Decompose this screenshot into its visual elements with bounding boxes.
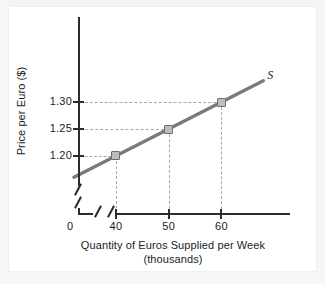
plot-area: S 1.30 1.25 1.20 40 50 60 0 Price per Eu… xyxy=(0,0,325,284)
y-axis-tick-label: 1.20 xyxy=(32,149,72,161)
data-point-marker xyxy=(164,125,173,134)
origin-label: 0 xyxy=(60,220,80,232)
x-axis-tick-label: 60 xyxy=(204,220,238,232)
y-axis-title: Price per Euro ($) xyxy=(15,51,27,171)
x-axis-tick xyxy=(220,209,222,219)
x-axis-tick-label: 40 xyxy=(99,220,133,232)
x-axis-title-line2: (thousands) xyxy=(143,253,202,265)
curve-label-s: S xyxy=(267,68,273,83)
x-axis-title: Quantity of Euros Supplied per Week (tho… xyxy=(48,238,298,266)
x-axis-title-line1: Quantity of Euros Supplied per Week xyxy=(81,239,265,251)
y-axis-tick xyxy=(73,101,84,103)
figure-container: S 1.30 1.25 1.20 40 50 60 0 Price per Eu… xyxy=(0,0,325,284)
x-axis-tick xyxy=(115,209,117,219)
x-axis-tick xyxy=(168,209,170,219)
y-axis-tick xyxy=(73,155,84,157)
y-axis-tick-label: 1.25 xyxy=(32,122,72,134)
y-axis-tick-label: 1.30 xyxy=(32,95,72,107)
data-point-marker xyxy=(111,151,120,160)
y-axis-tick xyxy=(73,128,84,130)
data-point-marker xyxy=(217,98,226,107)
x-axis-tick-label: 50 xyxy=(152,220,186,232)
